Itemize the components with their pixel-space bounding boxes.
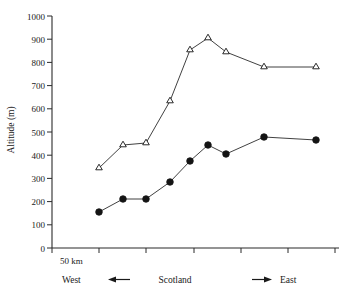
x-axis-ticks: [52, 248, 335, 253]
y-tick-label: 700: [32, 81, 46, 91]
arrow-east-icon: [252, 276, 272, 282]
arrow-west-icon: [108, 276, 130, 282]
y-tick-label: 600: [32, 104, 46, 114]
scale-bar-label: 50 km: [60, 256, 83, 266]
x-axis-title: Scotland: [158, 275, 191, 285]
series-markers-lower: [96, 134, 320, 216]
y-axis-title: Altitude (m): [6, 106, 17, 153]
y-axis-ticks: [47, 16, 52, 248]
y-tick-label: 0: [41, 244, 46, 254]
altitude-transect-chart: Altitude (m) 1000 900 800 700 600 500 40…: [0, 0, 345, 295]
chart-svg: Altitude (m) 1000 900 800 700 600 500 40…: [0, 0, 345, 295]
y-tick-labels: 1000 900 800 700 600 500 400 300 200 100…: [27, 12, 46, 254]
y-tick-label: 100: [32, 220, 46, 230]
y-tick-label: 400: [32, 151, 46, 161]
direction-label-east: East: [280, 275, 297, 285]
y-tick-label: 200: [32, 197, 46, 207]
y-tick-label: 1000: [27, 12, 46, 22]
y-tick-label: 800: [32, 58, 46, 68]
y-tick-label: 500: [32, 128, 46, 138]
y-tick-label: 300: [32, 174, 46, 184]
y-tick-label: 900: [32, 35, 46, 45]
series-markers-upper: [96, 34, 320, 170]
direction-label-west: West: [62, 275, 81, 285]
